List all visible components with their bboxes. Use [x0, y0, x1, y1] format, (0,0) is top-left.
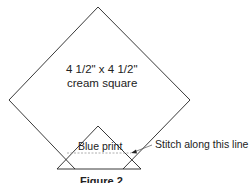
square-label-name: cream square [67, 77, 137, 89]
arrowhead-icon [131, 150, 137, 154]
square-label-size: 4 1/2" x 4 1/2" [66, 63, 137, 75]
quilt-diagram [0, 0, 252, 183]
callout-label: Stitch along this line [155, 138, 248, 150]
figure-caption: Figure 2 [80, 175, 123, 183]
triangle-label: Blue print [78, 140, 122, 152]
callout-leader [134, 145, 152, 152]
